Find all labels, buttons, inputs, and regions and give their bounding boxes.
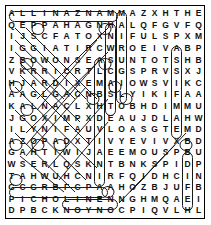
grid-cell: W [39,170,50,182]
grid-cell: W [61,147,72,159]
grid-cell: D [182,158,193,170]
grid-cell: I [39,8,50,20]
grid-cell: S [149,77,160,89]
grid-cell: A [171,193,182,205]
grid-cell: L [17,124,28,136]
grid-cell: N [83,89,94,101]
grid-cell: D [50,77,61,89]
grid-cell: Q [160,193,171,205]
grid-cell: A [193,89,204,101]
grid-cell: V [160,42,171,54]
grid-cell: U [50,170,61,182]
grid-cell: I [6,124,17,136]
grid-cell: R [39,158,50,170]
grid-cell: A [17,170,28,182]
grid-cell: A [50,42,61,54]
grid-cell: T [83,66,94,78]
grid-cell: W [105,42,116,54]
grid-cell: S [160,31,171,43]
grid-cell: H [182,54,193,66]
grid-cell: H [6,77,17,89]
letter-grid: ALLINAZNAMMAZXHTHEQEPPAHAGNHALQFGVFQIJSC… [6,6,204,218]
grid-cell: K [17,66,28,78]
grid-cell: A [116,112,127,124]
grid-cell: A [17,100,28,112]
grid-cell: C [72,170,83,182]
grid-cell: P [171,147,182,159]
grid-cell: X [39,112,50,124]
grid-cell: C [94,42,105,54]
grid-cell: E [17,19,28,31]
grid-cell: M [149,193,160,205]
grid-cell: X [149,8,160,20]
grid-cell: C [39,31,50,43]
grid-cell: J [17,77,28,89]
grid-cell: I [116,31,127,43]
grid-cell: G [17,42,28,54]
grid-cell: H [116,182,127,194]
grid-cell: N [116,193,127,205]
grid-cell: J [83,147,94,159]
grid-cell: N [94,19,105,31]
grid-cell: R [105,170,116,182]
grid-cell: D [193,135,204,147]
grid-cell: K [50,205,61,217]
grid-cell: L [28,100,39,112]
grid-cell: M [94,77,105,89]
grid-cell: C [61,100,72,112]
grid-cell: I [182,170,193,182]
grid-cell: H [28,170,39,182]
grid-cell: I [138,170,149,182]
grid-cell: V [160,135,171,147]
grid-cell: A [6,135,17,147]
grid-cell: U [193,147,204,159]
grid-cell: J [17,31,28,43]
grid-cell: I [94,135,105,147]
grid-cell: O [116,124,127,136]
grid-cell: G [116,66,127,78]
grid-cell: Y [28,124,39,136]
grid-cell: R [39,66,50,78]
grid-cell: U [138,31,149,43]
grid-cell: J [138,112,149,124]
grid-cell: A [127,8,138,20]
grid-cell: D [61,135,72,147]
grid-cell: G [83,19,94,31]
grid-cell: U [149,147,160,159]
grid-cell: A [6,8,17,20]
grid-cell: S [127,66,138,78]
grid-cell: E [105,112,116,124]
grid-cell: O [127,42,138,54]
grid-cell: O [28,135,39,147]
grid-cell: X [83,112,94,124]
grid-cell: T [83,135,94,147]
grid-cell: S [171,66,182,78]
grid-cell: H [28,147,39,159]
grid-cell: T [6,170,17,182]
grid-cell: B [28,205,39,217]
grid-cell: A [171,42,182,54]
grid-cell: P [28,19,39,31]
grid-cell: K [83,158,94,170]
grid-cell: G [28,182,39,194]
grid-cell: I [160,100,171,112]
grid-cell: Z [138,182,149,194]
grid-cell: S [160,147,171,159]
grid-cell: P [193,158,204,170]
grid-cell: W [6,158,17,170]
grid-cell: I [193,193,204,205]
grid-cell: X [182,31,193,43]
grid-cell: L [17,8,28,20]
grid-cell: H [39,193,50,205]
grid-cell: P [83,182,94,194]
grid-cell: L [149,31,160,43]
grid-cell: U [116,54,127,66]
grid-cell: I [72,193,83,205]
grid-cell: B [149,182,160,194]
grid-cell: P [171,31,182,43]
grid-cell: M [193,31,204,43]
grid-cell: N [61,205,72,217]
grid-cell: L [61,193,72,205]
grid-cell: P [6,193,17,205]
grid-cell: I [6,31,17,43]
